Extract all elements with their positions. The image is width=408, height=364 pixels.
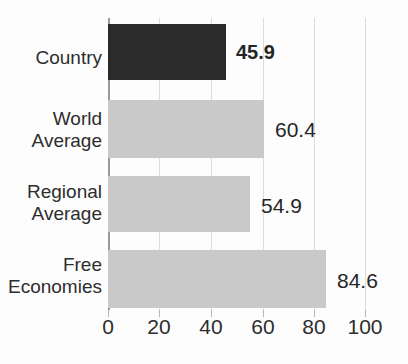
bar-free-economies [108, 250, 326, 308]
category-label-world-average: World Average [2, 108, 102, 152]
value-label-world-average: 60.4 [275, 119, 316, 140]
category-axis: Country World Average Regional Average F… [0, 18, 102, 310]
xtick-label-20: 20 [147, 316, 170, 337]
value-label-country: 45.9 [236, 42, 275, 62]
clipped-chart-title [120, 0, 300, 5]
xtick-label-60: 60 [251, 316, 274, 337]
gridline-100 [365, 18, 366, 310]
bar-regional-average [108, 176, 250, 232]
category-label-regional-average: Regional Average [2, 181, 102, 225]
xtick-label-100: 100 [347, 316, 382, 337]
bar-world-average [108, 100, 264, 158]
value-label-regional-average: 54.9 [261, 195, 302, 216]
xtick-label-0: 0 [102, 316, 114, 337]
x-axis: 0 20 40 60 80 100 [108, 316, 366, 350]
bar-chart: Country World Average Regional Average F… [0, 0, 408, 364]
bar-country [108, 24, 226, 80]
xtick-label-40: 40 [199, 316, 222, 337]
category-label-free-economies: Free Economies [2, 254, 102, 298]
xtick-label-80: 80 [302, 316, 325, 337]
category-label-country: Country [2, 47, 102, 69]
value-label-free-economies: 84.6 [337, 270, 378, 291]
